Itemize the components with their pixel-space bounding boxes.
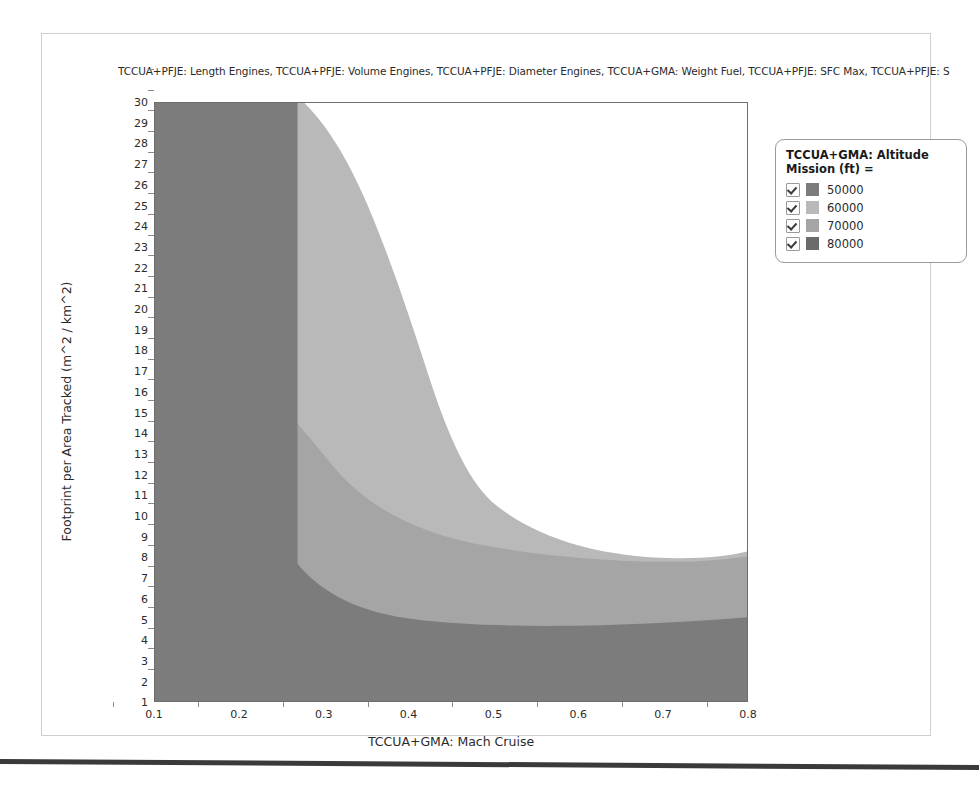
- x-axis-title: TCCUA+GMA: Mach Cruise: [154, 734, 748, 749]
- chart-card: TCCUA+PFJE: Length Engines, TCCUA+PFJE: …: [41, 33, 931, 736]
- legend-label-80000: 80000: [827, 237, 864, 251]
- y-tick-mark: [148, 648, 154, 649]
- legend-label-60000: 60000: [827, 201, 864, 215]
- y-tick-mark: [148, 172, 154, 173]
- y-tick-label: 21: [134, 283, 148, 294]
- y-tick-label: 16: [134, 386, 148, 397]
- y-tick-mark: [148, 462, 154, 463]
- y-tick-label: 2: [141, 676, 148, 687]
- legend-swatch-70000: [806, 219, 819, 232]
- y-tick-label: 25: [134, 200, 148, 211]
- x-tick-label: 0.2: [230, 708, 248, 721]
- y-tick-label: 12: [134, 469, 148, 480]
- y-tick-label: 7: [141, 573, 148, 584]
- x-tick-label: 0.8: [739, 708, 757, 721]
- y-tick-label: 26: [134, 179, 148, 190]
- y-tick-label: 30: [134, 97, 148, 108]
- y-tick-label: 22: [134, 262, 148, 273]
- y-tick-mark: [148, 669, 154, 670]
- y-tick-mark: [148, 193, 154, 194]
- y-tick-mark: [148, 503, 154, 504]
- y-tick-label: 15: [134, 407, 148, 418]
- y-tick-mark: [148, 235, 154, 236]
- y-axis-title: Footprint per Area Tracked (m^2 / km^2): [59, 182, 74, 642]
- y-tick-mark: [148, 69, 154, 70]
- y-tick-label: 8: [141, 552, 148, 563]
- x-tick-label: 0.5: [485, 708, 503, 721]
- y-tick-mark: [148, 607, 154, 608]
- y-tick-label: 9: [141, 531, 148, 542]
- x-tick-mark: [537, 702, 538, 707]
- legend-swatch-80000: [806, 237, 819, 250]
- y-tick-mark: [148, 317, 154, 318]
- y-tick-label: 23: [134, 241, 148, 252]
- y-tick-mark: [148, 131, 154, 132]
- y-tick-mark: [148, 628, 154, 629]
- y-tick-label: 1: [141, 697, 148, 708]
- x-tick-label: 0.7: [654, 708, 672, 721]
- y-tick-mark: [148, 359, 154, 360]
- y-tick-label: 3: [141, 655, 148, 666]
- y-tick-mark: [148, 110, 154, 111]
- x-tick-label: 0.4: [400, 708, 418, 721]
- contour-plot-area[interactable]: [154, 102, 748, 702]
- y-tick-label: 11: [134, 490, 148, 501]
- x-axis-ticks: 0.1 0.2 0.3 0.4 0.5 0.6 0.7 0.8: [154, 708, 748, 726]
- legend-title: TCCUA+GMA: Altitude Mission (ft) =: [786, 148, 956, 176]
- y-tick-label: 6: [141, 593, 148, 604]
- y-tick-mark: [148, 400, 154, 401]
- x-tick-mark: [622, 702, 623, 707]
- y-tick-mark: [148, 545, 154, 546]
- y-tick-label: 24: [134, 221, 148, 232]
- legend-label-50000: 50000: [827, 183, 864, 197]
- x-tick-label: 0.3: [315, 708, 333, 721]
- legend-label-70000: 70000: [827, 219, 864, 233]
- legend-checkbox-50000[interactable]: [786, 183, 800, 197]
- y-tick-mark: [148, 152, 154, 153]
- region-50000-left: [155, 103, 298, 701]
- y-tick-mark: [148, 214, 154, 215]
- legend-panel[interactable]: TCCUA+GMA: Altitude Mission (ft) = 50000…: [775, 139, 967, 263]
- y-tick-label: 18: [134, 345, 148, 356]
- y-tick-mark: [148, 421, 154, 422]
- y-tick-mark: [148, 379, 154, 380]
- y-tick-mark: [148, 338, 154, 339]
- x-tick-label: 0.1: [145, 708, 163, 721]
- y-tick-label: 28: [134, 138, 148, 149]
- y-tick-label: 5: [141, 614, 148, 625]
- x-tick-mark: [198, 702, 199, 707]
- y-tick-mark: [148, 566, 154, 567]
- contour-svg: [155, 103, 747, 701]
- y-tick-label: 14: [134, 428, 148, 439]
- y-tick-mark: [148, 255, 154, 256]
- y-tick-label: 17: [134, 366, 148, 377]
- page-bottom-rule: [0, 759, 979, 770]
- y-tick-mark: [148, 276, 154, 277]
- x-tick-mark: [368, 702, 369, 707]
- legend-swatch-50000: [806, 183, 819, 196]
- legend-item-60000[interactable]: 60000: [786, 199, 956, 216]
- y-tick-label: 13: [134, 448, 148, 459]
- legend-checkbox-60000[interactable]: [786, 201, 800, 215]
- chart-title: TCCUA+PFJE: Length Engines, TCCUA+PFJE: …: [118, 65, 979, 81]
- x-tick-mark: [452, 702, 453, 707]
- y-tick-mark: [148, 441, 154, 442]
- legend-item-50000[interactable]: 50000: [786, 181, 956, 198]
- y-axis-ticks: 30 29 28 27 26 25 24 23 22 21 20 19 18 1…: [112, 96, 148, 708]
- y-tick-label: 19: [134, 324, 148, 335]
- y-tick-mark: [148, 586, 154, 587]
- legend-item-80000[interactable]: 80000: [786, 235, 956, 252]
- legend-checkbox-80000[interactable]: [786, 237, 800, 251]
- x-tick-mark: [283, 702, 284, 707]
- y-tick-label: 27: [134, 159, 148, 170]
- x-tick-mark: [113, 702, 114, 707]
- legend-checkbox-70000[interactable]: [786, 219, 800, 233]
- y-tick-label: 20: [134, 304, 148, 315]
- y-tick-mark: [148, 90, 154, 91]
- legend-item-70000[interactable]: 70000: [786, 217, 956, 234]
- y-tick-label: 10: [134, 511, 148, 522]
- legend-swatch-60000: [806, 201, 819, 214]
- y-tick-label: 29: [134, 117, 148, 128]
- x-tick-label: 0.6: [570, 708, 588, 721]
- y-tick-mark: [148, 297, 154, 298]
